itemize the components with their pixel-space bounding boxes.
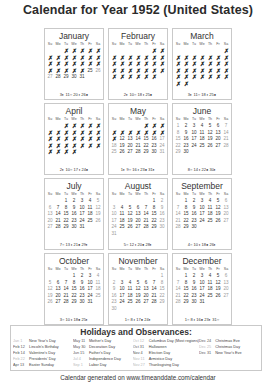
day-cell: 29	[182, 299, 190, 306]
holiday-name: Labor Day	[88, 363, 107, 367]
month-october: OctoberSuMoTuWeThFrSa1234567891011121314…	[44, 253, 104, 325]
crossed-day-icon: ✗	[182, 55, 190, 62]
day-cell: 29	[62, 74, 70, 81]
month-may: MaySuMoTuWeThFrSa✗✗✗✗✗✗✗✗✗✗✗121314151617…	[108, 103, 168, 175]
holiday-date: Nov 27	[133, 362, 148, 368]
crossed-day-icon: ✗	[134, 68, 142, 75]
day-cell: 28	[222, 143, 230, 150]
crossed-day-icon: ✗	[150, 48, 158, 55]
month-june: JuneSuMoTuWeThFrSa1234567891011121314151…	[172, 103, 232, 175]
day-cell: 14	[174, 286, 182, 293]
moon-phases: 1○ 8◑ 16● 23◐ 31○	[173, 317, 231, 322]
month-name: April	[45, 106, 103, 116]
crossed-day-icon: ✗	[94, 130, 102, 137]
holidays-list: Jan 1 New Year's DayFeb 12 Lincoln's Bir…	[13, 338, 259, 368]
empty-cell	[142, 273, 150, 280]
crossed-day-icon: ✗	[86, 123, 94, 130]
day-cell: 11	[126, 286, 134, 293]
weekday-label: Su	[110, 117, 118, 122]
weekday-label: Fr	[214, 192, 222, 197]
crossed-day-icon: ✗	[222, 68, 230, 75]
moon-phases: 2◐ 10○ 18◑ 25●	[109, 92, 167, 97]
day-cell: 22	[70, 293, 78, 300]
day-cell: 25	[206, 218, 214, 225]
crossed-day-icon: ✗	[158, 123, 166, 130]
holiday-name: New Year's Eve	[214, 351, 242, 355]
crossed-day-icon: ✗	[126, 130, 134, 137]
crossed-day-icon: ✗	[118, 61, 126, 68]
day-cell: 7	[142, 205, 150, 212]
moon-phases: 2◐ 10○ 17◑ 24●	[45, 167, 103, 172]
day-cell: 30	[190, 299, 198, 306]
weekday-label: Su	[110, 192, 118, 197]
crossed-day-icon: ✗	[78, 55, 86, 62]
month-march: MarchSuMoTuWeThFrSa✗✗✗✗✗✗✗✗✗✗✗✗✗✗✗✗✗✗✗✗✗…	[172, 28, 232, 100]
day-cell: 28	[134, 149, 142, 156]
weekday-label: Fr	[214, 117, 222, 122]
day-cell: 24	[110, 224, 118, 231]
day-cell: 19	[118, 143, 126, 150]
day-cell: 31	[158, 149, 166, 156]
month-february: FebruarySuMoTuWeThFrSa✗✗✗✗✗✗✗✗✗✗✗✗✗✗✗✗✗✗…	[108, 28, 168, 100]
crossed-day-icon: ✗	[70, 143, 78, 150]
day-cell: 28	[150, 299, 158, 306]
month-name: September	[173, 181, 231, 191]
holiday-date: Dec 31	[199, 350, 214, 356]
empty-cell	[110, 273, 118, 280]
holiday-name: Valentine's Day	[28, 351, 55, 355]
crossed-day-icon: ✗	[62, 136, 70, 143]
moon-phases: 7○ 13◑ 21● 29◐	[45, 242, 103, 247]
crossed-day-icon: ✗	[118, 68, 126, 75]
moon-phases: 3◐ 11○ 20◑ 26●	[45, 92, 103, 97]
day-cell: 10	[78, 205, 86, 212]
empty-cell	[134, 273, 142, 280]
holiday-name: Halloween	[148, 345, 167, 349]
crossed-day-icon: ✗	[46, 143, 54, 150]
weekday-label: Th	[142, 267, 150, 272]
crossed-day-icon: ✗	[182, 81, 190, 88]
day-cell: 3	[118, 280, 126, 287]
crossed-day-icon: ✗	[150, 130, 158, 137]
weekday-label: Mo	[54, 192, 62, 197]
empty-cell	[142, 48, 150, 55]
holiday-name: Decoration Day	[88, 345, 115, 349]
weekday-header: SuMoTuWeThFrSa	[174, 267, 230, 272]
day-cell: 4	[198, 123, 206, 130]
day-cell: 23	[182, 143, 190, 150]
crossed-day-icon: ✗	[70, 48, 78, 55]
weekday-header: SuMoTuWeThFrSa	[46, 117, 102, 122]
weekday-label: Tu	[126, 192, 134, 197]
day-cell: 9	[158, 205, 166, 212]
day-cell: 28	[54, 74, 62, 81]
day-cell: 22	[182, 293, 190, 300]
empty-cell	[46, 198, 54, 205]
day-cell: 15	[70, 286, 78, 293]
day-cell: 19	[94, 211, 102, 218]
day-cell: 15	[182, 286, 190, 293]
day-cell: 17	[158, 136, 166, 143]
holiday-name: Election Day	[148, 351, 170, 355]
day-cell: 24	[158, 143, 166, 150]
day-cell: 17	[198, 211, 206, 218]
day-cell: 15	[62, 211, 70, 218]
day-cell: 5	[214, 198, 222, 205]
day-cell: 9	[182, 130, 190, 137]
crossed-day-icon: ✗	[134, 61, 142, 68]
crossed-day-icon: ✗	[78, 48, 86, 55]
weekday-label: Tu	[62, 192, 70, 197]
crossed-day-icon: ✗	[142, 55, 150, 62]
weekday-label: Sa	[222, 42, 230, 47]
month-name: February	[109, 31, 167, 41]
crossed-day-icon: ✗	[62, 149, 70, 156]
day-grid: 1234567891011121314151617181920212223242…	[174, 198, 230, 231]
crossed-day-icon: ✗	[62, 61, 70, 68]
day-cell: 2	[182, 123, 190, 130]
crossed-day-icon: ✗	[214, 74, 222, 81]
day-cell: 22	[142, 143, 150, 150]
day-cell: 20	[222, 286, 230, 293]
day-grid: ✗✗✗✗✗✗✗✗✗✗✗✗✗✗✗✗✗✗✗✗✗✗✗✗25262728293031	[46, 48, 102, 81]
crossed-day-icon: ✗	[78, 123, 86, 130]
crossed-day-icon: ✗	[150, 74, 158, 81]
day-cell: 7	[174, 205, 182, 212]
crossed-day-icon: ✗	[86, 136, 94, 143]
